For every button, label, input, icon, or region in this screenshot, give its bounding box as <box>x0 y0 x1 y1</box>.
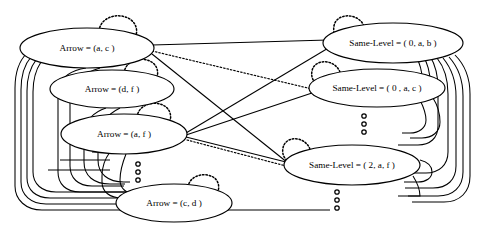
node-label-arrow_cd: Arrow = (c, d ) <box>146 198 201 208</box>
ellipsis-arrow-column <box>136 162 140 182</box>
ellipsis-dot <box>335 190 339 194</box>
ellipsis-dot <box>362 130 366 134</box>
node-label-same_0ab: Same-Level = ( 0, a, b ) <box>349 38 436 48</box>
straight-edges <box>152 40 330 166</box>
ellipsis-same-level-upper <box>362 114 366 134</box>
node-label-arrow_df: Arrow = (d, f ) <box>85 84 139 94</box>
edge-arrow_af-to-same_2af-dotted <box>187 140 286 166</box>
node-arrow_cd[interactable]: Arrow = (c, d ) <box>116 184 232 222</box>
node-label-arrow_af: Arrow = (a, f ) <box>97 129 151 139</box>
ellipsis-dot <box>362 122 366 126</box>
ellipsis-dot <box>362 114 366 118</box>
diagram-canvas: Arrow = (a, c ) Arrow = (d, f ) Arrow = … <box>0 0 492 237</box>
ellipsis-dot <box>136 178 140 182</box>
node-same_0ab[interactable]: Same-Level = ( 0, a, b ) <box>323 23 463 63</box>
graph-svg: Arrow = (a, c ) Arrow = (d, f ) Arrow = … <box>0 0 492 237</box>
node-arrow_ac[interactable]: Arrow = (a, c ) <box>20 28 154 68</box>
ellipsis-same-level-lower <box>335 190 339 210</box>
edge-arrow_ac-to-same_0ab <box>152 40 328 45</box>
node-arrow_af[interactable]: Arrow = (a, f ) <box>61 114 187 154</box>
edge-arrow_af-to-same_0ac <box>186 93 312 135</box>
node-label-same_0ac: Same-Level = ( 0 , a, c ) <box>332 83 421 93</box>
edge-arrow_af-to-same_0ab <box>186 47 330 133</box>
node-same_0ac[interactable]: Same-Level = ( 0 , a, c ) <box>309 69 445 107</box>
node-label-same_2af: Same-Level = ( 2, a, f ) <box>309 160 395 170</box>
edge-arrow_ac-to-same_0ac <box>152 51 312 89</box>
ellipsis-dot <box>136 170 140 174</box>
ellipsis-dot <box>335 206 339 210</box>
ellipsis-dot <box>335 198 339 202</box>
node-arrow_df[interactable]: Arrow = (d, f ) <box>50 70 174 108</box>
node-same_2af[interactable]: Same-Level = ( 2, a, f ) <box>284 145 420 185</box>
ellipsis-dot <box>136 162 140 166</box>
node-label-arrow_ac: Arrow = (a, c ) <box>60 43 115 53</box>
